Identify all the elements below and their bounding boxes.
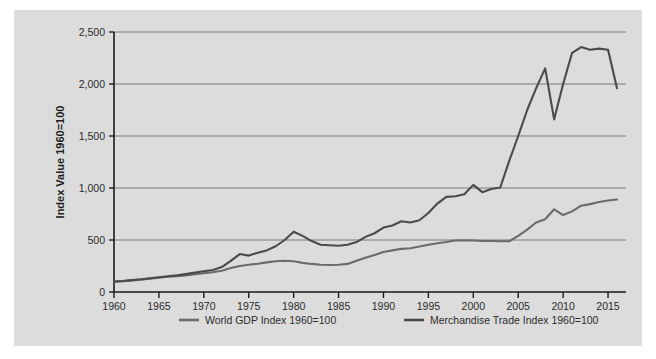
y-tick-label: 500 (87, 234, 105, 246)
data-series (114, 47, 617, 282)
gridlines (114, 32, 626, 240)
series-line-1 (114, 199, 617, 281)
y-tick-label: 1,500 (79, 130, 105, 142)
legend-label-2: Merchandise Trade Index 1960=100 (430, 314, 599, 326)
x-tick-label: 1965 (147, 300, 171, 312)
x-tick-label: 1990 (372, 300, 396, 312)
x-tick-label: 1970 (192, 300, 216, 312)
chart-legend: World GDP Index 1960=100Merchandise Trad… (179, 314, 599, 326)
line-chart: 05001,0001,5002,0002,500 196019651970197… (14, 10, 642, 346)
x-tick-label: 1995 (417, 300, 441, 312)
legend-label-1: World GDP Index 1960=100 (205, 314, 336, 326)
x-tick-label: 2010 (551, 300, 575, 312)
x-tick-label: 2005 (507, 300, 531, 312)
x-tick-label: 2015 (596, 300, 620, 312)
x-tick-label: 1975 (237, 300, 261, 312)
y-tick-label: 2,500 (79, 26, 105, 38)
x-axis-ticks: 1960196519701975198019851990199520002005… (102, 292, 620, 312)
series-line-2 (114, 47, 617, 282)
y-tick-label: 0 (99, 286, 105, 298)
x-tick-label: 2000 (462, 300, 486, 312)
y-axis-title: Index Value 1960=100 (54, 106, 66, 219)
y-tick-label: 2,000 (79, 78, 105, 90)
y-tick-label: 1,000 (79, 182, 105, 194)
y-axis-ticks: 05001,0001,5002,0002,500 (79, 26, 114, 298)
x-tick-label: 1980 (282, 300, 306, 312)
x-tick-label: 1985 (327, 300, 351, 312)
chart-panel: 05001,0001,5002,0002,500 196019651970197… (14, 10, 642, 346)
x-tick-label: 1960 (102, 300, 126, 312)
